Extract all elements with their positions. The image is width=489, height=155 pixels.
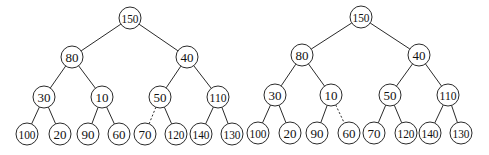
tree-edge (92, 107, 98, 123)
tree-edge (378, 105, 385, 123)
tree-edge (308, 64, 324, 86)
node-label: 150 (353, 10, 370, 25)
tree-node-40: 40 (176, 46, 198, 68)
node-label: 60 (113, 127, 126, 142)
tree-edge (139, 24, 178, 51)
tree-node-100: 100 (247, 122, 269, 144)
tree-edge (81, 24, 121, 51)
tree-edge (206, 107, 214, 124)
tree-edge (222, 107, 228, 123)
tree-edge (321, 105, 327, 122)
tree-edge (50, 66, 65, 88)
tree-node-130: 130 (450, 122, 472, 144)
node-label: 50 (154, 90, 167, 105)
node-label: 50 (384, 88, 397, 103)
tree-node-10: 10 (91, 86, 113, 108)
node-label: 140 (193, 127, 210, 142)
tree-edge (164, 107, 171, 124)
tree-node-120: 120 (395, 122, 417, 144)
tree-node-30: 30 (264, 84, 286, 106)
node-label: 40 (413, 48, 426, 63)
tree-node-60: 60 (338, 122, 360, 144)
node-label: 150 (122, 11, 139, 26)
tree-edge (79, 66, 96, 88)
tree-node-140: 140 (419, 122, 441, 144)
node-label: 130 (224, 127, 241, 142)
tree-node-20: 20 (49, 123, 71, 145)
tree-node-120: 120 (165, 123, 187, 145)
node-label: 20 (284, 126, 297, 141)
node-label: 140 (422, 126, 439, 141)
tree-diagram-canvas: 1508040301050110100209060701201401301508… (0, 0, 489, 155)
tree-node-140: 140 (190, 123, 212, 145)
node-label: 60 (343, 126, 356, 141)
node-label: 130 (453, 126, 470, 141)
tree-node-70: 70 (134, 123, 156, 145)
node-label: 80 (66, 50, 79, 65)
tree-edge (394, 105, 401, 123)
tree-edge (194, 66, 212, 89)
tree-edge (32, 107, 40, 124)
tree-node-100: 100 (16, 123, 38, 145)
tree-edge (107, 107, 115, 124)
node-label: 110 (440, 88, 457, 103)
tree-node-90: 90 (306, 122, 328, 144)
tree-node-150: 150 (119, 7, 141, 29)
tree-edge (370, 23, 410, 49)
node-label: 90 (311, 126, 324, 141)
node-label: 10 (96, 90, 109, 105)
tree-edge (425, 64, 441, 86)
tree-edge (452, 105, 458, 122)
tree-node-130: 130 (221, 123, 243, 145)
node-label: 20 (54, 127, 67, 142)
tree-node-80: 80 (291, 44, 313, 66)
right-tree: 150804030105011010020906070120140130 (247, 6, 472, 144)
tree-node-10: 10 (320, 84, 342, 106)
tree-node-60: 60 (108, 123, 130, 145)
edges-layer (32, 23, 458, 124)
tree-edge (279, 105, 286, 123)
tree-node-150: 150 (350, 6, 372, 28)
tree-edge (262, 105, 270, 123)
tree-node-50: 50 (379, 84, 401, 106)
node-label: 100 (250, 126, 267, 141)
node-label: 10 (325, 88, 338, 103)
node-label: 70 (368, 126, 381, 141)
node-label: 30 (269, 88, 282, 103)
tree-node-80: 80 (61, 46, 83, 68)
dashed-edge (149, 107, 156, 124)
tree-node-110: 110 (207, 86, 229, 108)
tree-edge (48, 107, 55, 124)
tree-node-70: 70 (363, 122, 385, 144)
tree-node-40: 40 (408, 44, 430, 66)
node-label: 100 (19, 127, 36, 142)
node-label: 120 (398, 126, 415, 141)
left-tree: 150804030105011010020906070120140130 (16, 7, 243, 145)
node-label: 110 (210, 90, 227, 105)
tree-edge (396, 64, 412, 86)
node-label: 30 (38, 90, 51, 105)
tree-node-20: 20 (279, 122, 301, 144)
node-label: 40 (181, 50, 194, 65)
tree-node-50: 50 (149, 86, 171, 108)
tree-edge (281, 64, 296, 86)
tree-node-30: 30 (33, 86, 55, 108)
node-label: 90 (82, 127, 95, 142)
left-tree-edges (32, 24, 229, 124)
tree-node-90: 90 (77, 123, 99, 145)
tree-edge (166, 66, 181, 88)
node-label: 70 (139, 127, 152, 142)
node-label: 120 (168, 127, 185, 142)
dashed-edge (336, 105, 345, 123)
right-tree-edges (262, 23, 457, 123)
node-label: 80 (296, 48, 309, 63)
tree-edge (435, 105, 444, 123)
tree-edge (311, 23, 352, 49)
tree-node-110: 110 (437, 84, 459, 106)
